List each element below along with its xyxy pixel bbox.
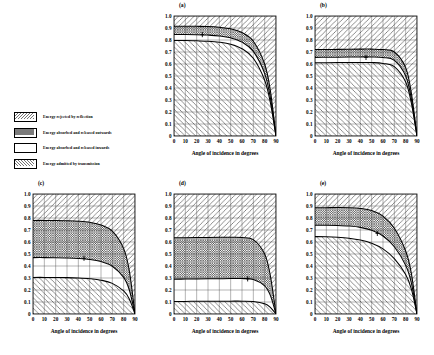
svg-text:0.1: 0.1 xyxy=(165,299,172,305)
legend-item: Energy admitted by transmission xyxy=(14,159,149,169)
chart-panel-e: (e) xyxy=(289,178,434,355)
svg-text:80: 80 xyxy=(403,316,409,322)
legend-label: Energy admitted by transmission xyxy=(43,162,100,166)
svg-text:50: 50 xyxy=(369,316,375,322)
svg-text:50: 50 xyxy=(228,316,234,322)
svg-text:0: 0 xyxy=(314,316,317,322)
legend-swatch-backslash-hatch xyxy=(14,112,37,122)
svg-text:40: 40 xyxy=(358,316,364,322)
plot-area: 010203040506070809000.10.20.30.40.50.60.… xyxy=(289,0,434,152)
svg-text:0.6: 0.6 xyxy=(306,61,313,67)
x-axis-label: Angle of incidence in degrees xyxy=(160,328,290,334)
svg-text:20: 20 xyxy=(194,316,200,322)
svg-text:0.3: 0.3 xyxy=(24,275,31,281)
svg-text:0.2: 0.2 xyxy=(24,287,31,293)
legend-item: Energy rejected by reflection xyxy=(14,112,149,122)
svg-text:0.4: 0.4 xyxy=(306,85,313,91)
legend-swatch-solid-white xyxy=(14,143,37,153)
svg-text:10: 10 xyxy=(183,138,189,144)
svg-text:0.5: 0.5 xyxy=(165,251,172,257)
svg-text:70: 70 xyxy=(251,316,257,322)
svg-text:0.2: 0.2 xyxy=(306,287,313,293)
svg-text:60: 60 xyxy=(380,316,386,322)
svg-text:80: 80 xyxy=(262,138,268,144)
svg-text:70: 70 xyxy=(110,316,116,322)
svg-text:0.1: 0.1 xyxy=(306,121,313,127)
svg-text:0.8: 0.8 xyxy=(306,215,313,221)
svg-text:0.1: 0.1 xyxy=(165,121,172,127)
svg-text:20: 20 xyxy=(194,138,200,144)
svg-text:0.5: 0.5 xyxy=(306,73,313,79)
chart-panel-a: (a) xyxy=(148,0,293,178)
legend-item: Energy absorbed and released outwards xyxy=(14,128,149,138)
svg-text:0.5: 0.5 xyxy=(24,251,31,257)
svg-text:70: 70 xyxy=(392,316,398,322)
svg-text:1.0: 1.0 xyxy=(165,13,172,19)
svg-text:0.5: 0.5 xyxy=(306,251,313,257)
svg-text:60: 60 xyxy=(239,138,245,144)
svg-text:20: 20 xyxy=(335,138,341,144)
svg-text:10: 10 xyxy=(324,138,330,144)
plot-area: 010203040506070809000.10.20.30.40.50.60.… xyxy=(289,178,434,330)
svg-text:90: 90 xyxy=(414,316,420,322)
legend-item: Energy absorbed and released inwards xyxy=(14,143,149,153)
legend-swatch-cross-hatch xyxy=(14,128,37,138)
svg-text:50: 50 xyxy=(87,316,93,322)
svg-text:1.0: 1.0 xyxy=(306,191,313,197)
svg-text:0.7: 0.7 xyxy=(306,49,313,55)
svg-text:30: 30 xyxy=(346,138,352,144)
svg-text:0: 0 xyxy=(314,138,317,144)
svg-text:0: 0 xyxy=(173,138,176,144)
svg-text:0: 0 xyxy=(173,316,176,322)
svg-text:0.9: 0.9 xyxy=(24,203,31,209)
svg-text:50: 50 xyxy=(369,138,375,144)
legend: Energy rejected by reflection Energy abs… xyxy=(14,112,149,174)
svg-text:0.7: 0.7 xyxy=(165,227,172,233)
svg-text:0: 0 xyxy=(32,316,35,322)
svg-text:90: 90 xyxy=(273,316,279,322)
svg-text:90: 90 xyxy=(132,316,138,322)
svg-text:0.6: 0.6 xyxy=(165,239,172,245)
svg-text:0.8: 0.8 xyxy=(165,37,172,43)
chart-panel-b: (b) xyxy=(289,0,434,178)
x-axis-label: Angle of incidence in degrees xyxy=(160,150,290,156)
svg-text:0: 0 xyxy=(310,133,313,139)
svg-text:1.0: 1.0 xyxy=(24,191,31,197)
x-axis-label: Angle of incidence in degrees xyxy=(301,150,431,156)
svg-text:0.8: 0.8 xyxy=(165,215,172,221)
svg-text:80: 80 xyxy=(403,138,409,144)
plot-area: 010203040506070809000.10.20.30.40.50.60.… xyxy=(7,178,152,330)
svg-text:60: 60 xyxy=(380,138,386,144)
svg-text:20: 20 xyxy=(53,316,59,322)
svg-text:30: 30 xyxy=(346,316,352,322)
svg-text:40: 40 xyxy=(217,316,223,322)
svg-text:0: 0 xyxy=(310,311,313,317)
svg-text:0: 0 xyxy=(169,133,172,139)
svg-text:40: 40 xyxy=(76,316,82,322)
svg-text:20: 20 xyxy=(335,316,341,322)
svg-text:30: 30 xyxy=(64,316,70,322)
svg-text:10: 10 xyxy=(183,316,189,322)
svg-text:60: 60 xyxy=(239,316,245,322)
svg-text:10: 10 xyxy=(42,316,48,322)
svg-text:0: 0 xyxy=(28,311,31,317)
svg-text:0.3: 0.3 xyxy=(306,97,313,103)
figure-container: Energy rejected by reflection Energy abs… xyxy=(0,0,434,355)
svg-text:0.1: 0.1 xyxy=(306,299,313,305)
svg-text:0.6: 0.6 xyxy=(165,61,172,67)
svg-text:0.4: 0.4 xyxy=(24,263,31,269)
svg-text:30: 30 xyxy=(205,316,211,322)
svg-text:0.9: 0.9 xyxy=(306,203,313,209)
svg-text:0.1: 0.1 xyxy=(24,299,31,305)
svg-text:30: 30 xyxy=(205,138,211,144)
svg-text:0.6: 0.6 xyxy=(306,239,313,245)
svg-text:0.4: 0.4 xyxy=(165,85,172,91)
svg-text:10: 10 xyxy=(324,316,330,322)
x-axis-label: Angle of incidence in degrees xyxy=(19,328,149,334)
svg-text:0.6: 0.6 xyxy=(24,239,31,245)
legend-label: Energy rejected by reflection xyxy=(43,115,93,119)
svg-text:70: 70 xyxy=(392,138,398,144)
svg-text:50: 50 xyxy=(228,138,234,144)
legend-label: Energy absorbed and released outwards xyxy=(43,131,112,135)
svg-text:0.9: 0.9 xyxy=(306,25,313,31)
